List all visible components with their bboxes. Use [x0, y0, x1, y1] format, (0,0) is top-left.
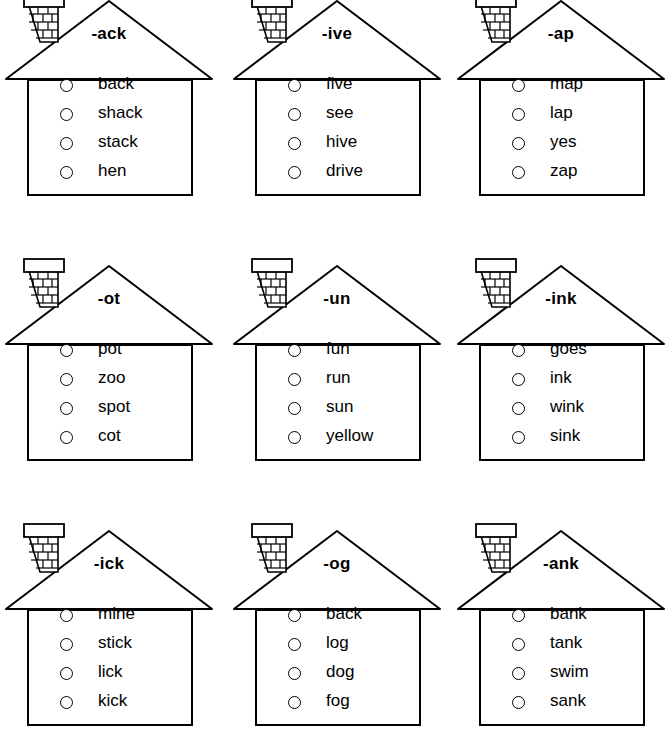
- word-option-row[interactable]: yellow: [228, 424, 446, 453]
- circle-bubble-icon[interactable]: [288, 667, 301, 680]
- word-option-row[interactable]: wink: [452, 395, 667, 424]
- circle-bubble-icon[interactable]: [288, 609, 301, 622]
- word-option-row[interactable]: lap: [452, 101, 667, 130]
- circle-bubble-icon[interactable]: [512, 166, 525, 179]
- word-option-row[interactable]: cot: [0, 424, 218, 453]
- circle-bubble-icon[interactable]: [288, 108, 301, 121]
- house-ive: -ive fiveseehivedrive: [228, 0, 446, 200]
- word-option-row[interactable]: stack: [0, 130, 218, 159]
- word-option-row[interactable]: run: [228, 366, 446, 395]
- rime-label-house-og: -og: [228, 554, 446, 574]
- word-text: log: [326, 631, 349, 655]
- circle-bubble-icon[interactable]: [288, 166, 301, 179]
- word-option-row[interactable]: back: [0, 72, 218, 101]
- circle-bubble-icon[interactable]: [60, 431, 73, 444]
- circle-bubble-icon[interactable]: [512, 402, 525, 415]
- word-option-row[interactable]: sun: [228, 395, 446, 424]
- word-option-row[interactable]: map: [452, 72, 667, 101]
- word-option-row[interactable]: spot: [0, 395, 218, 424]
- word-list: maplapyeszap: [452, 72, 667, 188]
- word-text: see: [326, 101, 353, 125]
- word-text: zoo: [98, 366, 125, 390]
- circle-bubble-icon[interactable]: [512, 373, 525, 386]
- circle-bubble-icon[interactable]: [512, 667, 525, 680]
- word-text: wink: [550, 395, 584, 419]
- circle-bubble-icon[interactable]: [60, 667, 73, 680]
- word-text: run: [326, 366, 351, 390]
- circle-bubble-icon[interactable]: [60, 638, 73, 651]
- circle-bubble-icon[interactable]: [60, 137, 73, 150]
- word-option-row[interactable]: yes: [452, 130, 667, 159]
- word-option-row[interactable]: shack: [0, 101, 218, 130]
- word-option-row[interactable]: zap: [452, 159, 667, 188]
- circle-bubble-icon[interactable]: [288, 638, 301, 651]
- word-option-row[interactable]: ink: [452, 366, 667, 395]
- word-text: fun: [326, 337, 350, 361]
- circle-bubble-icon[interactable]: [512, 431, 525, 444]
- house-ick: -ick minesticklickkick: [0, 520, 218, 730]
- house-ank: -ank banktankswimsank: [452, 520, 667, 730]
- word-option-row[interactable]: fog: [228, 689, 446, 718]
- word-option-row[interactable]: lick: [0, 660, 218, 689]
- circle-bubble-icon[interactable]: [288, 402, 301, 415]
- circle-bubble-icon[interactable]: [512, 79, 525, 92]
- house-og: -og backlogdogfog: [228, 520, 446, 730]
- word-text: mine: [98, 602, 135, 626]
- word-text: sank: [550, 689, 586, 713]
- circle-bubble-icon[interactable]: [288, 696, 301, 709]
- circle-bubble-icon[interactable]: [288, 373, 301, 386]
- circle-bubble-icon[interactable]: [60, 166, 73, 179]
- word-option-row[interactable]: hive: [228, 130, 446, 159]
- word-option-row[interactable]: drive: [228, 159, 446, 188]
- circle-bubble-icon[interactable]: [60, 79, 73, 92]
- word-option-row[interactable]: fun: [228, 337, 446, 366]
- circle-bubble-icon[interactable]: [60, 344, 73, 357]
- circle-bubble-icon[interactable]: [512, 137, 525, 150]
- circle-bubble-icon[interactable]: [512, 344, 525, 357]
- word-option-row[interactable]: see: [228, 101, 446, 130]
- word-text: hive: [326, 130, 357, 154]
- word-option-row[interactable]: back: [228, 602, 446, 631]
- word-option-row[interactable]: tank: [452, 631, 667, 660]
- circle-bubble-icon[interactable]: [512, 108, 525, 121]
- word-text: lick: [98, 660, 123, 684]
- rime-label-house-ick: -ick: [0, 554, 218, 574]
- word-option-row[interactable]: five: [228, 72, 446, 101]
- word-list: backshackstackhen: [0, 72, 218, 188]
- circle-bubble-icon[interactable]: [288, 431, 301, 444]
- circle-bubble-icon[interactable]: [512, 609, 525, 622]
- word-option-row[interactable]: goes: [452, 337, 667, 366]
- word-option-row[interactable]: sank: [452, 689, 667, 718]
- word-option-row[interactable]: pot: [0, 337, 218, 366]
- circle-bubble-icon[interactable]: [288, 344, 301, 357]
- word-text: hen: [98, 159, 126, 183]
- circle-bubble-icon[interactable]: [60, 373, 73, 386]
- word-option-row[interactable]: dog: [228, 660, 446, 689]
- word-option-row[interactable]: swim: [452, 660, 667, 689]
- circle-bubble-icon[interactable]: [60, 402, 73, 415]
- word-option-row[interactable]: stick: [0, 631, 218, 660]
- word-option-row[interactable]: bank: [452, 602, 667, 631]
- word-text: sink: [550, 424, 580, 448]
- house-ink: -ink goesinkwinksink: [452, 255, 667, 465]
- rime-label-house-un: -un: [228, 289, 446, 309]
- word-option-row[interactable]: hen: [0, 159, 218, 188]
- rime-label-house-ive: -ive: [228, 24, 446, 44]
- word-text: dog: [326, 660, 354, 684]
- word-option-row[interactable]: mine: [0, 602, 218, 631]
- circle-bubble-icon[interactable]: [60, 108, 73, 121]
- circle-bubble-icon[interactable]: [60, 696, 73, 709]
- word-text: drive: [326, 159, 363, 183]
- word-option-row[interactable]: zoo: [0, 366, 218, 395]
- word-option-row[interactable]: kick: [0, 689, 218, 718]
- circle-bubble-icon[interactable]: [512, 638, 525, 651]
- rime-label-house-ot: -ot: [0, 289, 218, 309]
- circle-bubble-icon[interactable]: [288, 137, 301, 150]
- word-option-row[interactable]: sink: [452, 424, 667, 453]
- word-option-row[interactable]: log: [228, 631, 446, 660]
- circle-bubble-icon[interactable]: [512, 696, 525, 709]
- word-text: stack: [98, 130, 138, 154]
- circle-bubble-icon[interactable]: [60, 609, 73, 622]
- circle-bubble-icon[interactable]: [288, 79, 301, 92]
